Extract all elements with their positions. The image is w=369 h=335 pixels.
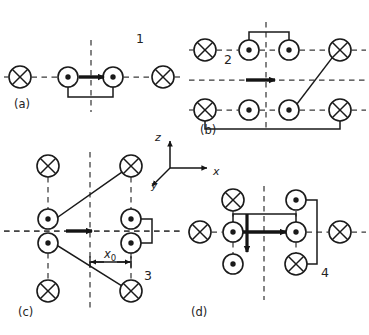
config-number-1: 1	[136, 31, 144, 46]
axis-label-z: z	[155, 131, 161, 144]
current-dot-glyph	[286, 107, 291, 112]
current-dot-glyph	[293, 197, 298, 202]
current-dot-glyph	[293, 229, 298, 234]
axis-label-y: y	[151, 179, 158, 192]
current-dot-glyph	[65, 74, 70, 79]
panel-label-c: (c)	[18, 305, 33, 319]
current-dot-glyph	[128, 240, 133, 245]
conductor-wire-b	[205, 121, 340, 129]
current-dot-glyph	[45, 216, 50, 221]
dimension-symbol: x	[104, 247, 111, 261]
dimension-subscript: 0	[111, 253, 116, 263]
figure-canvas: (a) (b) (c) (d) 1 2 3 4 z x y x0	[0, 0, 369, 335]
schematic-diagram	[0, 0, 369, 335]
panel-label-d: (d)	[191, 305, 207, 319]
current-dot-glyph	[246, 107, 251, 112]
config-number-2: 2	[224, 52, 232, 67]
current-dot-glyph	[110, 74, 115, 79]
conductor-wire-b	[249, 32, 289, 40]
config-number-4: 4	[321, 265, 329, 280]
generated-geometry	[4, 22, 366, 312]
current-dot-glyph	[286, 47, 291, 52]
panel-label-a: (a)	[14, 97, 30, 111]
current-dot-glyph	[230, 229, 235, 234]
current-dot-glyph	[246, 47, 251, 52]
conductor-wire-c	[58, 172, 122, 217]
dimension-label-x0: x0	[104, 247, 116, 263]
current-dot-glyph	[128, 216, 133, 221]
current-dot-glyph	[45, 240, 50, 245]
panel-label-b: (b)	[200, 123, 216, 137]
current-dot-glyph	[230, 261, 235, 266]
config-number-3: 3	[144, 268, 152, 283]
conductor-wire-b	[297, 58, 332, 104]
axis-label-x: x	[213, 165, 220, 178]
